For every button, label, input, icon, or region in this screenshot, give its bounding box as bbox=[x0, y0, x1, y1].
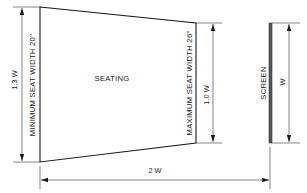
screen-width-dim-label: W bbox=[278, 78, 287, 85]
seating-label: SEATING bbox=[95, 74, 130, 83]
arrow-left-icon bbox=[41, 178, 48, 182]
arrow-down-icon bbox=[287, 135, 291, 142]
arrow-up-icon bbox=[211, 24, 215, 31]
screen bbox=[269, 23, 272, 143]
arrow-right-icon bbox=[262, 178, 269, 182]
arrow-up-icon bbox=[287, 24, 291, 31]
arrow-down-icon bbox=[20, 154, 24, 161]
seating-area bbox=[40, 7, 196, 162]
rear-width-dimension: 1.0 W bbox=[196, 23, 222, 143]
minimum-seat-width-label: MINIMUM SEAT WIDTH 20" bbox=[28, 34, 37, 136]
arrow-down-icon bbox=[211, 135, 215, 142]
depth-dimension: 2 W bbox=[40, 147, 270, 189]
screen-label: SCREEN bbox=[259, 66, 268, 99]
screen-width-dimension: W bbox=[272, 23, 300, 143]
arrow-up-icon bbox=[20, 8, 24, 15]
rear-width-dim-label: 1.0 W bbox=[202, 85, 211, 104]
depth-dim-label: 2 W bbox=[148, 166, 161, 175]
maximum-seat-width-label: MAXIMUM SEAT WIDTH 26" bbox=[185, 31, 194, 136]
front-width-dim-label: 1.3 W bbox=[10, 70, 19, 89]
seating-layout-diagram: SEATING MINIMUM SEAT WIDTH 20" 1.3 W MAX… bbox=[0, 0, 307, 193]
